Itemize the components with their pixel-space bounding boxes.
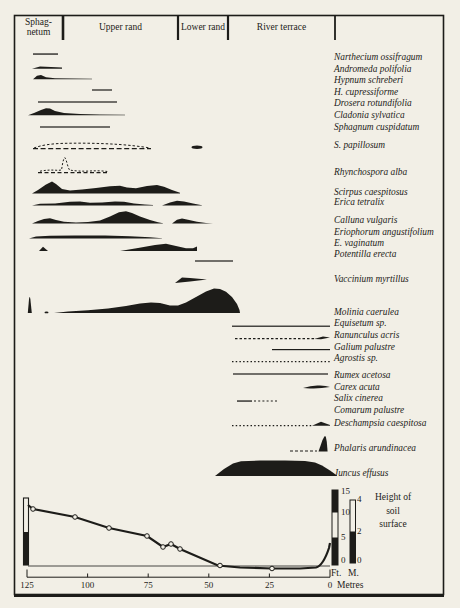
ft-tick-5: 5 [341,533,346,542]
species-label-ranunculus: Ranunculus acris [334,330,399,341]
species-label-sphagnum-cuspidatum: Sphagnum cuspidatum [334,122,419,133]
kite-erica-main [32,201,153,205]
x-tick-75: 75 [144,581,153,590]
soil-surface-title-line1: Height of [360,491,426,505]
x-tick-25: 25 [265,581,274,590]
species-label-narthecium: Narthecium ossifragum [334,52,422,63]
kite-calluna-main [32,211,163,223]
species-label-rhynchospora: Rhynchospora alba [334,167,407,178]
species-label-rumex: Rumex acetosa [334,370,391,381]
ft-tick-0: 0 [341,556,346,565]
species-label-juncus: Juncus effusus [334,468,388,479]
soil-profile-chart [24,490,356,577]
kite-h-cupressiforme [92,89,112,90]
x-axis-ruler [27,570,330,578]
species-label-andromeda: Andromeda polifolia [334,64,412,75]
species-label-comarum: Comarum palustre [334,405,404,416]
kite-drosera [38,101,117,102]
kite-ranunculus-arrow [314,336,330,339]
zone-label-upper-rand: Upper rand [63,22,178,32]
species-label-phalaris: Phalaris arundinacea [334,443,416,454]
kite-galium [272,349,330,350]
species-label-s-papillosum: S. papillosum [334,140,385,151]
ft-unit-label: Ft. [331,568,341,578]
kite-papillosum-blob [192,146,203,149]
m-tick-0: 0 [357,556,362,565]
kite-e-vaginatum-left [39,247,48,251]
ft-scale-bar-top-black [332,490,338,513]
zone-label-sphagnetum-line1: Sphag- [14,17,63,27]
kite-potentilla [195,260,233,261]
x-tick-125: 125 [20,581,34,590]
species-label-galium: Galium palustre [334,342,395,353]
species-label-e-vaginatum: E. vaginatum [334,238,384,249]
kite-narthecium [33,53,58,54]
zone-label-sphagnetum: Sphag- netum [14,17,63,37]
m-scale-bar-black [350,532,356,564]
kite-rhynchospora-outline [40,158,108,172]
kite-e-vaginatum-main [120,244,197,251]
kite-sphagnum-cuspidatum [40,126,110,127]
kite-equisetum [232,326,330,327]
soil-surface-title-line3: surface [360,518,426,532]
kite-calluna-second [172,219,213,224]
zone-label-sphagnetum-line2: netum [14,27,63,37]
kite-eriophorum-angustifolium [29,235,162,238]
ft-tick-15: 15 [341,487,350,496]
kite-phalaris-spike [319,436,328,451]
kite-salix-solid [237,400,252,401]
vegetation-transect-figure: Sphag- netum Upper rand Lower rand River… [0,0,460,608]
kite-andromeda [32,67,62,69]
species-label-calluna: Calluna vulgaris [334,215,397,226]
species-label-molinia: Molinia caerulea [334,307,399,318]
species-label-equisetum: Equisetum sp. [334,318,387,329]
species-label-vaccinium: Vaccinium myrtillus [334,274,409,285]
kite-vaccinium [175,278,207,283]
kite-molinia-main [54,289,240,313]
kite-cladonia [28,108,125,115]
left-scale-bar-black [24,532,29,565]
x-axis-unit-label: Metres [337,580,363,590]
ft-scale-bar-bottom-black [332,538,338,566]
x-tick-0: 0 [328,581,333,590]
soil-surface-title-line2: soil [360,505,426,519]
species-label-potentilla: Potentilla erecta [334,249,396,260]
species-label-erica: Erica tetralix [334,197,384,208]
kite-papillosum-outline [34,143,150,148]
zone-label-river-terrace: River terrace [228,22,335,32]
species-label-agrostis: Agrostis sp. [334,353,378,364]
species-label-cladonia: Cladonia sylvatica [334,110,405,121]
kite-scirpus [32,182,180,194]
kite-hypnum-schreberi [33,75,92,79]
species-label-deschampsia: Deschampsia caespitosa [334,418,426,429]
kite-deschampsia-tri [312,422,330,426]
kite-erica-second [162,201,202,206]
species-label-carex-acuta: Carex acuta [334,382,380,393]
x-tick-100: 100 [81,581,95,590]
m-unit-label: M. [348,568,359,578]
species-label-salix: Salix cinerea [334,393,383,404]
kite-carex-acuta [303,386,330,389]
kite-molinia-spike [28,297,32,313]
soil-profile-line [28,505,330,569]
ft-tick-10: 10 [341,508,350,517]
zone-label-lower-rand: Lower rand [178,22,228,32]
species-label-hypnum-schreberi: Hypnum schreberi [334,75,403,86]
species-label-eriophorum-angustifolium: Eriophorum angustifolium [334,227,434,238]
x-tick-50: 50 [204,581,213,590]
kite-molinia-dot [45,312,49,314]
kite-rumex [233,373,328,374]
species-label-drosera: Drosera rotundifolia [334,98,412,109]
soil-surface-title: Height of soil surface [360,491,426,532]
kite-juncus [215,461,337,476]
species-label-h-cupressiforme: H. cupressiforme [334,87,398,98]
